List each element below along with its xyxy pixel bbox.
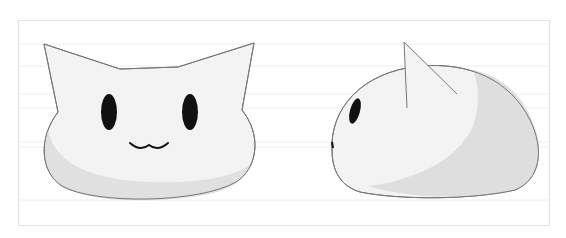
- cat-front-view: [44, 43, 255, 200]
- side-mouth-tick: [332, 142, 333, 148]
- cat-side-view: [332, 42, 539, 198]
- right-eye: [182, 94, 198, 130]
- left-eye: [101, 94, 117, 130]
- cat-illustration: [0, 0, 566, 238]
